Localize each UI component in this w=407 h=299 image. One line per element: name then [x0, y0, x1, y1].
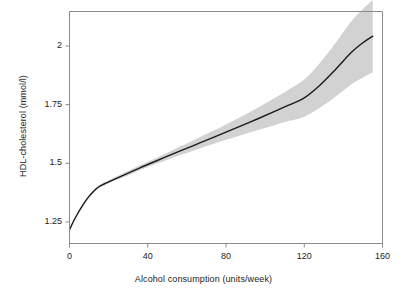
chart-figure: 1.251.51.752 04080120160 Alcohol consump… — [0, 0, 407, 299]
x-axis-title: Alcohol consumption (units/week) — [0, 274, 407, 284]
x-tick-label: 80 — [206, 251, 246, 261]
y-tick-label: 1.25 — [24, 216, 62, 226]
confidence-band-group — [70, 0, 373, 231]
y-tick-label: 2 — [24, 40, 62, 50]
x-tick-label: 40 — [128, 251, 168, 261]
y-axis-title: HDL-cholesterol (mmol/l) — [18, 41, 28, 211]
y-tick-label: 1.5 — [24, 157, 62, 167]
x-tick-label: 120 — [284, 251, 324, 261]
confidence-band — [70, 0, 373, 231]
y-tick-label: 1.75 — [24, 99, 62, 109]
x-tick-label: 0 — [50, 251, 90, 261]
x-tick-label: 160 — [363, 251, 403, 261]
